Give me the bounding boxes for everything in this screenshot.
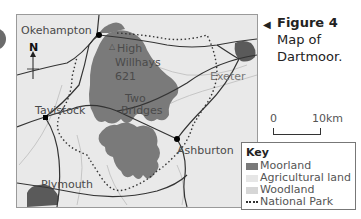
- caption-line-2: Dartmoor.: [277, 48, 342, 65]
- place-tavistock: Tavistock: [35, 105, 85, 116]
- map-key: Key Moorland Agricultural land Woodland …: [241, 142, 356, 210]
- key-title: Key: [246, 146, 351, 159]
- place-exeter: Exeter: [210, 71, 246, 82]
- north-arrow-icon: [25, 51, 41, 91]
- scale-start: 0: [270, 112, 277, 125]
- place-plymouth: Plymouth: [41, 179, 93, 190]
- place-okehampton: Okehampton: [20, 25, 93, 36]
- ashburton-marker: [174, 136, 180, 142]
- place-high-willhays-1: High: [117, 43, 142, 54]
- okehampton-marker: [96, 32, 102, 38]
- scale-line: [273, 128, 321, 135]
- summit-height: 621: [115, 71, 136, 82]
- place-two-bridges-2: Bridges: [121, 105, 163, 116]
- caption-line-1: Map of: [277, 31, 342, 48]
- key-label: National Park: [260, 196, 333, 208]
- moorland-south: [99, 122, 160, 179]
- summit-icon: △: [109, 43, 115, 51]
- moorland-swatch: [246, 163, 258, 170]
- place-ashburton: Ashburton: [177, 145, 234, 156]
- dartmoor-map: N Okehampton △ High Willhays 621 Exeter …: [16, 14, 258, 208]
- key-item-national-park: National Park: [246, 196, 351, 208]
- agricultural-swatch: [246, 175, 258, 182]
- woodland-swatch: [246, 187, 258, 194]
- scale-bar: 0 10km: [270, 112, 350, 142]
- north-arrow: N: [25, 41, 41, 81]
- figure-title: Figure 4: [277, 14, 342, 31]
- scale-end: 10km: [312, 112, 343, 125]
- dotted-line-swatch: [246, 201, 258, 203]
- pointer-arrow-icon: ◀: [263, 16, 271, 33]
- margin-tab-marker: [0, 28, 6, 50]
- place-high-willhays-2: Willhays: [115, 57, 161, 68]
- place-two-bridges-1: Two: [125, 93, 146, 104]
- figure-caption: ◀ Figure 4 Map of Dartmoor.: [277, 14, 342, 65]
